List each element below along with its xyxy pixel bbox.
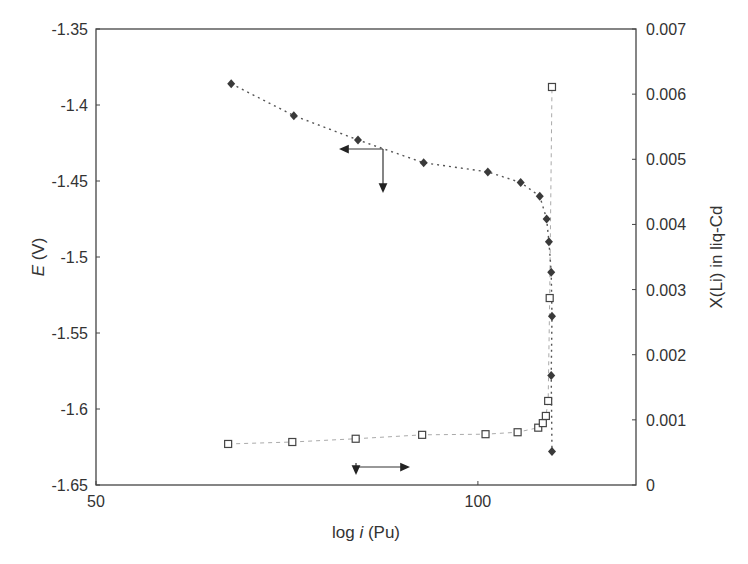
y-tick-label: -1.55: [52, 325, 89, 342]
y-tick-label: -1.65: [52, 477, 89, 494]
y2-tick-label: 0.007: [646, 21, 686, 38]
filled-diamond-marker: [227, 79, 235, 88]
y2-tick-label: 0.001: [646, 412, 686, 429]
filled-diamond-marker: [548, 447, 556, 456]
potential-connector-line: [231, 84, 552, 452]
y-axis-title: E (V): [29, 238, 48, 277]
y2-tick-label: 0: [646, 477, 655, 494]
y2-tick-label: 0.006: [646, 86, 686, 103]
x-tick-label: 50: [87, 493, 105, 510]
chart: -1.35-1.4-1.45-1.5-1.55-1.6-1.65 0.0070.…: [0, 0, 748, 564]
y-tick-label: -1.45: [52, 173, 89, 190]
x-axis-title: log i (Pu): [332, 523, 400, 542]
potential-markers: [227, 79, 556, 456]
xli-connector-line: [228, 87, 552, 444]
y-tick-label: -1.4: [60, 97, 88, 114]
open-square-marker: [419, 431, 426, 438]
arrowhead-down-icon: [352, 465, 361, 475]
filled-diamond-marker: [547, 268, 555, 277]
filled-diamond-marker: [548, 312, 556, 321]
xli-markers: [225, 83, 556, 447]
open-square-marker: [482, 431, 489, 438]
open-square-marker: [225, 440, 232, 447]
filled-diamond-marker: [536, 192, 544, 201]
y-tick-label: -1.35: [52, 21, 89, 38]
filled-diamond-marker: [543, 215, 551, 224]
filled-diamond-marker: [517, 178, 525, 187]
left-axis-ticks: -1.35-1.4-1.45-1.5-1.55-1.6-1.65: [52, 21, 100, 494]
arrowhead-right-icon: [400, 463, 410, 472]
y2-tick-label: 0.004: [646, 216, 686, 233]
filled-diamond-marker: [290, 111, 298, 120]
plot-frame: [96, 29, 636, 485]
arrowhead-left-icon: [339, 145, 349, 154]
x-axis-title-prefix: log: [332, 523, 359, 542]
open-square-marker: [539, 420, 546, 427]
chart-canvas: -1.35-1.4-1.45-1.5-1.55-1.6-1.65 0.0070.…: [0, 0, 748, 564]
arrowhead-down-icon: [379, 183, 388, 193]
x-tick-label: 100: [465, 493, 492, 510]
y-axis-title-unit: (V): [29, 238, 48, 265]
y2-axis-title: X(Li) in liq-Cd: [707, 206, 726, 309]
x-axis-title-unit: (Pu): [363, 523, 400, 542]
filled-diamond-marker: [354, 135, 362, 144]
open-square-marker: [352, 435, 359, 442]
filled-diamond-marker: [484, 167, 492, 176]
potential-connector-polyline: [231, 84, 552, 452]
filled-diamond-marker: [420, 158, 428, 167]
y2-tick-label: 0.002: [646, 347, 686, 364]
open-square-marker: [548, 83, 555, 90]
y-tick-label: -1.5: [60, 249, 88, 266]
open-square-marker: [545, 397, 552, 404]
open-square-marker: [289, 439, 296, 446]
axis-pointer-arrows: [339, 145, 410, 475]
y-axis-title-italic: E: [29, 264, 48, 276]
open-square-marker: [546, 295, 553, 302]
filled-diamond-marker: [545, 237, 553, 246]
open-square-marker: [542, 412, 549, 419]
open-square-marker: [514, 429, 521, 436]
y2-tick-label: 0.003: [646, 282, 686, 299]
y2-tick-label: 0.005: [646, 151, 686, 168]
xli-connector-polyline: [228, 87, 552, 444]
right-axis-ticks: 0.0070.0060.0050.0040.0030.0020.0010: [632, 21, 686, 494]
y-tick-label: -1.6: [60, 401, 88, 418]
